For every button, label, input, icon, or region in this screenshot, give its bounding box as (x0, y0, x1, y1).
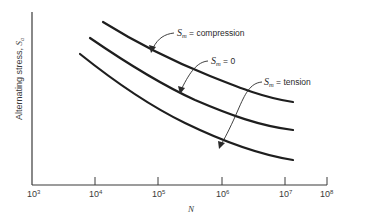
x-tick-label: 105 (152, 189, 166, 199)
x-tick-label: 107 (279, 189, 293, 199)
x-tick-label: 108 (320, 189, 334, 199)
x-axis-ticks (95, 177, 327, 185)
curve-tension (80, 54, 293, 160)
sn-chart: 103 104 105 106 107 108 N Alternating st… (0, 0, 368, 224)
annotation-compression: Sm = compression (149, 27, 245, 53)
svg-text:Sm = tension: Sm = tension (264, 76, 311, 88)
x-tick-labels: 103 104 105 106 107 108 (27, 189, 334, 199)
x-tick-label: 106 (216, 189, 230, 199)
svg-text:Sm = compression: Sm = compression (177, 27, 245, 39)
y-axis-title: Alternating stress, Sa (14, 38, 25, 120)
x-tick-label: 103 (27, 189, 41, 199)
x-axis-title: N (187, 204, 195, 214)
svg-text:Sm = 0: Sm = 0 (211, 55, 235, 67)
x-tick-label: 104 (89, 189, 103, 199)
annotation-tension: Sm = tension (218, 76, 311, 149)
